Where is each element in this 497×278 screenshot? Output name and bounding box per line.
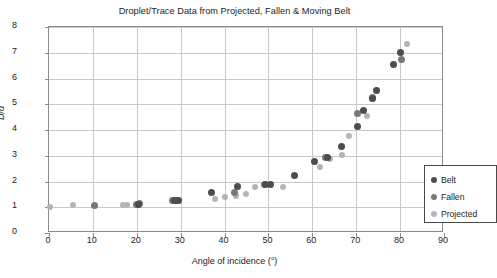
y-axis-title: D/d [0, 106, 6, 120]
gridline-vertical [312, 27, 313, 231]
y-axis-tick-label: 7 [0, 47, 17, 56]
legend-item-fallen[interactable]: Fallen [431, 188, 496, 205]
data-point-projected [70, 202, 76, 208]
gridline-horizontal [49, 207, 442, 208]
y-axis-tick [45, 104, 49, 105]
gridline-horizontal [49, 156, 442, 157]
legend-item-label: Projected [441, 209, 477, 219]
y-axis-tick [45, 130, 49, 131]
legend-marker-icon [431, 194, 437, 200]
data-point-belt [324, 154, 331, 161]
data-point-belt [390, 61, 397, 68]
legend-marker-icon [431, 211, 437, 217]
y-axis-tick-label: 6 [0, 73, 17, 82]
gridline-horizontal [49, 130, 442, 131]
y-axis-tick-label: 8 [0, 21, 17, 30]
data-point-belt [234, 183, 241, 190]
x-axis-tick-label: 50 [252, 236, 282, 245]
y-axis-tick [45, 182, 49, 183]
data-point-projected [404, 41, 410, 47]
data-point-belt [135, 201, 142, 208]
legend-item-label: Fallen [441, 192, 464, 202]
data-point-projected [212, 196, 218, 202]
data-point-belt [338, 143, 345, 150]
y-axis-tick-label: 4 [0, 124, 17, 133]
y-axis-tick [45, 27, 49, 28]
x-axis-title: Angle of incidence (°) [0, 256, 469, 266]
y-axis-tick-label: 1 [0, 201, 17, 210]
gridline-horizontal [49, 104, 442, 105]
x-axis-tick-label: 10 [77, 236, 107, 245]
data-point-fallen [398, 56, 405, 63]
y-axis-tick [45, 79, 49, 80]
gridline-horizontal [49, 79, 442, 80]
y-axis-tick-label: 3 [0, 150, 17, 159]
x-axis-tick-label: 0 [33, 236, 63, 245]
x-axis-tick-label: 70 [340, 236, 370, 245]
data-point-belt [397, 49, 404, 56]
chart-title: Droplet/Trace Data from Projected, Falle… [0, 6, 469, 16]
y-axis-tick-label: 2 [0, 176, 17, 185]
data-point-belt [354, 123, 361, 130]
data-point-belt [373, 87, 380, 94]
chart-legend: BeltFallenProjected [424, 165, 497, 223]
data-point-belt [291, 172, 298, 179]
gridline-horizontal [49, 53, 442, 54]
legend-item-label: Belt [441, 175, 456, 185]
y-axis-tick [45, 156, 49, 157]
data-point-projected [280, 184, 286, 190]
data-point-fallen [91, 202, 98, 209]
x-axis-tick-label: 80 [384, 236, 414, 245]
x-axis-tick-label: 60 [296, 236, 326, 245]
data-point-projected [47, 204, 53, 210]
data-point-projected [317, 164, 323, 170]
gridline-vertical [93, 27, 94, 231]
data-point-projected [243, 191, 249, 197]
y-axis-tick-label: 0 [0, 227, 17, 236]
legend-item-projected[interactable]: Projected [431, 205, 496, 222]
data-point-projected [346, 133, 352, 139]
data-point-fallen [231, 189, 238, 196]
gridline-horizontal [49, 182, 442, 183]
gridline-horizontal [49, 27, 442, 28]
plot-area: BeltFallenProjected [48, 26, 443, 232]
data-point-belt [267, 181, 274, 188]
gridline-vertical [268, 27, 269, 231]
legend-marker-icon [431, 177, 437, 183]
y-axis-tick [45, 53, 49, 54]
x-axis-tick-label: 30 [165, 236, 195, 245]
x-axis-tick-label: 20 [121, 236, 151, 245]
data-point-belt [360, 107, 367, 114]
data-point-belt [369, 95, 376, 102]
data-point-projected [252, 184, 258, 190]
gridline-vertical [225, 27, 226, 231]
data-point-belt [208, 189, 215, 196]
x-axis-tick-label: 40 [209, 236, 239, 245]
legend-item-belt[interactable]: Belt [431, 171, 496, 188]
data-point-projected [339, 152, 345, 158]
data-point-projected [222, 194, 228, 200]
x-axis-tick-label: 90 [428, 236, 458, 245]
